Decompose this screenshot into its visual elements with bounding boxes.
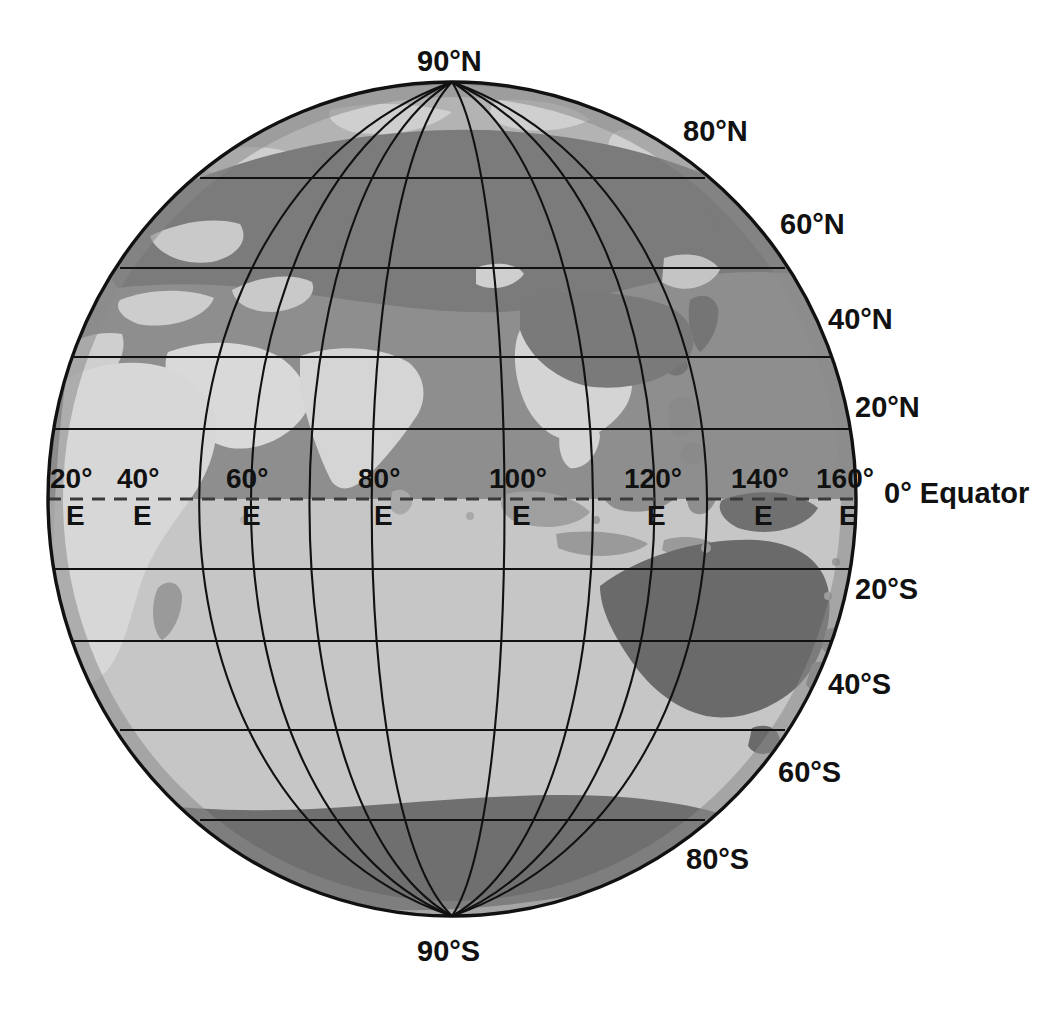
label-longitude-80e-degrees: 80° xyxy=(358,463,400,495)
label-longitude-40e-degrees: 40° xyxy=(117,463,159,495)
label-latitude-20s: 20°S xyxy=(855,573,918,606)
label-latitude-20n: 20°N xyxy=(855,391,920,424)
label-longitude-160e-degrees: 160° xyxy=(816,463,874,495)
label-longitude-120e-degrees: 120° xyxy=(624,463,682,495)
island-dot-6 xyxy=(466,512,474,520)
label-latitude-80n: 80°N xyxy=(683,115,748,148)
label-longitude-100e-degrees: 100° xyxy=(489,463,547,495)
label-latitude-60n: 60°N xyxy=(780,208,845,241)
label-longitude-80e-suffix: E xyxy=(374,500,393,532)
label-longitude-40e-suffix: E xyxy=(133,500,152,532)
label-latitude-60s: 60°S xyxy=(778,756,841,789)
label-longitude-100e-suffix: E xyxy=(512,500,531,532)
label-longitude-140e-degrees: 140° xyxy=(731,463,789,495)
land-antarctic-peninsula xyxy=(54,817,120,850)
label-latitude-40n: 40°N xyxy=(828,303,893,336)
globe-figure: 90°N 90°S 80°N 60°N 40°N 20°N 20°S 40°S … xyxy=(0,0,1061,1016)
label-longitude-20e-suffix: E xyxy=(66,500,85,532)
label-longitude-60e-suffix: E xyxy=(242,500,261,532)
label-latitude-40s: 40°S xyxy=(828,668,891,701)
label-latitude-90s: 90°S xyxy=(417,935,480,968)
label-longitude-140e-suffix: E xyxy=(754,500,773,532)
label-longitude-20e-degrees: 20° xyxy=(50,463,92,495)
label-longitude-60e-degrees: 60° xyxy=(226,463,268,495)
label-equator: 0° Equator xyxy=(884,477,1029,510)
label-latitude-90n: 90°N xyxy=(417,45,482,78)
label-latitude-80s: 80°S xyxy=(686,843,749,876)
label-longitude-160e-suffix: E xyxy=(839,500,858,532)
label-longitude-120e-suffix: E xyxy=(647,500,666,532)
